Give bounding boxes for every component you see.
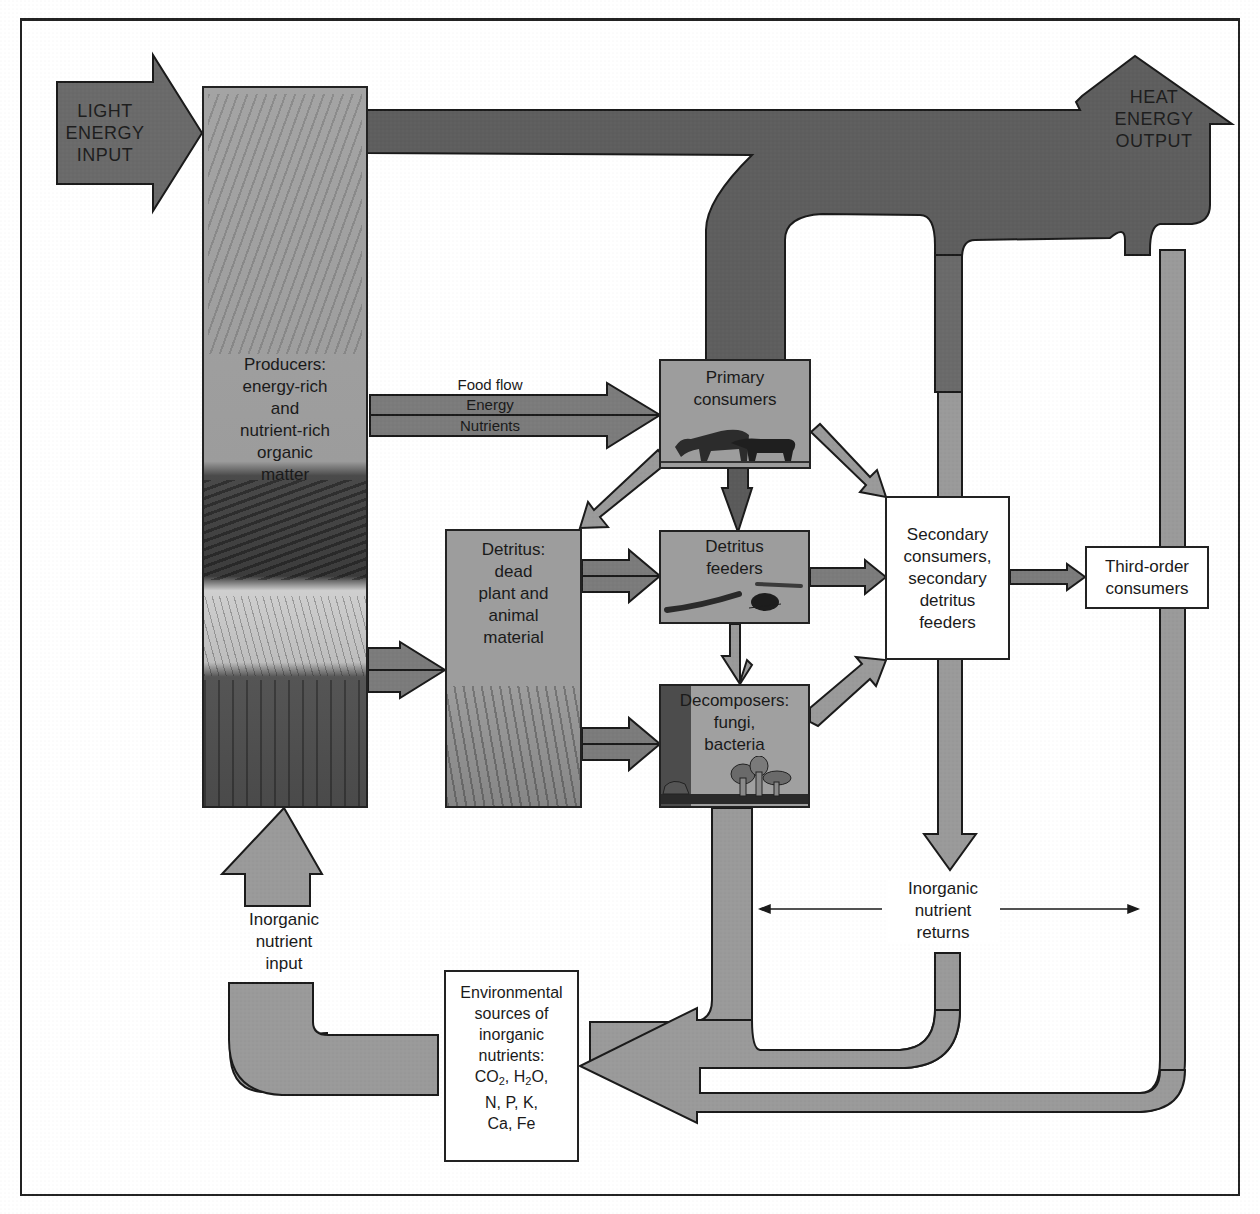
inorganic-input-arrow <box>222 808 322 906</box>
primary-to-detritus-arrow <box>580 450 668 528</box>
corn-field-illustration <box>204 680 366 806</box>
producers-box: Producers: energy-rich and nutrient-rich… <box>202 86 368 808</box>
secondary-to-third-arrow <box>1010 564 1085 590</box>
grassland-illustration <box>204 596 366 676</box>
primary-to-feeders-arrow <box>722 468 752 532</box>
flow-arrows-layer <box>0 0 1260 1214</box>
detritus-box: Detritus: dead plant and animal material <box>445 529 582 808</box>
producers-to-detritus-arrow <box>368 642 445 698</box>
energy-label: Energy <box>440 396 540 414</box>
secondary-consumers-box: Secondary consumers, secondary detritus … <box>885 496 1010 660</box>
big-return-arrow <box>580 1008 1185 1123</box>
producers-label: Producers: energy-rich and nutrient-rich… <box>204 354 366 486</box>
cropland-illustration <box>204 480 366 580</box>
heat-energy-pipes <box>367 56 1232 392</box>
inorganic-input-pipe-shape <box>229 983 438 1095</box>
inorganic-input-label: Inorganic nutrient input <box>228 909 340 975</box>
inorganic-returns-label: Inorganic nutrient returns <box>886 878 1000 944</box>
detritus-to-feeders-arrow <box>582 550 660 602</box>
mushrooms-illustration <box>661 756 808 804</box>
feeders-decomposers-arrow <box>722 624 752 684</box>
detritus-feeders-box: Detritus feeders <box>659 530 810 624</box>
feeders-to-secondary-arrow <box>810 560 886 594</box>
grazing-animals-illustration <box>661 417 809 465</box>
primary-consumers-box: Primary consumers <box>659 359 811 469</box>
third-order-consumers-box: Third-order consumers <box>1085 546 1209 609</box>
third-order-heat-pipe <box>935 255 962 392</box>
primary-to-secondary-arrow <box>811 424 886 497</box>
food-flow-label: Food flow <box>430 374 550 396</box>
nutrients-label: Nutrients <box>440 417 540 435</box>
worms-beetle-illustration <box>661 580 808 620</box>
forest-floor-illustration <box>447 686 580 806</box>
environmental-sources-box: Environmental sources of inorganic nutri… <box>444 970 579 1162</box>
decomposers-to-secondary-arrow <box>810 657 886 726</box>
forest-illustration <box>208 94 362 354</box>
heat-energy-output-label: HEAT ENERGY OUTPUT <box>1108 86 1200 152</box>
light-energy-input-label: LIGHT ENERGY INPUT <box>57 100 153 166</box>
decomposers-box: Decomposers: fungi, bacteria <box>659 684 810 808</box>
formula-co2-h2o: CO2, H2O, <box>446 1066 577 1092</box>
detritus-to-decomposers-arrow <box>582 718 660 770</box>
